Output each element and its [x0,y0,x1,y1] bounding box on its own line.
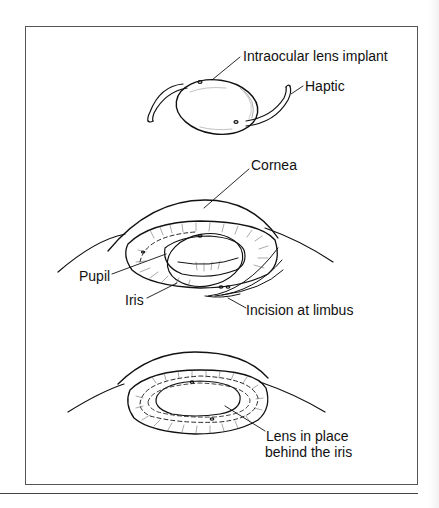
label-intraocular-lens-implant: Intraocular lens implant [243,48,388,64]
insertion-drawing [58,169,333,308]
label-haptic: Haptic [305,78,345,94]
label-lens-in-place-line1: Lens in place [266,428,349,444]
label-iris: Iris [125,292,144,308]
label-cornea: Cornea [251,157,297,173]
lens-implant-drawing [148,57,303,139]
label-pupil: Pupil [79,268,110,284]
label-incision-at-limbus: Incision at limbus [246,302,353,318]
eye-lens-illustration [0,0,439,508]
label-lens-in-place-line2: behind the iris [265,444,352,460]
lens-in-place-drawing [68,352,325,434]
